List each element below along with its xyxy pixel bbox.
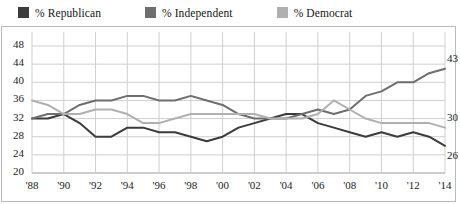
y-axis-tick-label: 32 [2, 111, 24, 123]
x-axis-tick-label: '00 [208, 179, 238, 191]
chart-legend: % Republican % Independent % Democrat [0, 0, 458, 25]
x-axis-tick-label: '98 [176, 179, 206, 191]
x-axis-tick-label: '12 [398, 179, 428, 191]
series-lines [32, 69, 445, 146]
x-axis-tick-label: '92 [81, 179, 111, 191]
x-axis-tick-label: '10 [366, 179, 396, 191]
legend-label-democrat: % Democrat [294, 7, 353, 19]
legend-swatch-democrat [277, 7, 288, 18]
legend-label-republican: % Republican [35, 7, 101, 19]
gridlines [32, 32, 445, 173]
legend-swatch-republican [18, 7, 29, 18]
x-axis-tick-label: '96 [144, 179, 174, 191]
y-axis-tick-label: 36 [2, 92, 24, 104]
legend-item-republican: % Republican [18, 0, 101, 25]
end-value-label: 26 [447, 149, 458, 161]
x-axis-tick-label: '02 [239, 179, 269, 191]
series-line-democrat [32, 100, 445, 127]
end-value-label: 30 [447, 111, 458, 123]
x-axis-tick-label: '06 [303, 179, 333, 191]
end-value-label: 43 [447, 52, 458, 64]
y-axis-tick-label: 24 [2, 147, 24, 159]
x-axis-tick-label: '90 [49, 179, 79, 191]
legend-swatch-independent [145, 7, 156, 18]
x-axis-tick-label: '88 [17, 179, 47, 191]
plot-svg [0, 26, 458, 204]
y-axis-tick-label: 40 [2, 74, 24, 86]
x-axis-tick-label: '14 [430, 179, 460, 191]
x-axis-tick-label: '04 [271, 179, 301, 191]
series-line-independent [32, 69, 445, 119]
x-axis-tick-label: '08 [335, 179, 365, 191]
x-axis-tick-label: '94 [112, 179, 142, 191]
legend-item-democrat: % Democrat [277, 0, 353, 25]
y-axis-tick-label: 48 [2, 38, 24, 50]
legend-label-independent: % Independent [162, 7, 233, 19]
y-axis-tick-label: 20 [2, 165, 24, 177]
y-axis-tick-label: 44 [2, 56, 24, 68]
legend-item-independent: % Independent [145, 0, 233, 25]
y-axis-tick-label: 28 [2, 129, 24, 141]
plot-area: 2024283236404448'88'90'92'94'96'98'00'02… [0, 26, 458, 204]
